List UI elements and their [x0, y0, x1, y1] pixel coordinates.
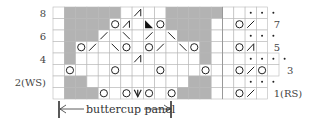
- knitting-chart: 8642(WS)7531(RS) buttercup panel: [0, 0, 316, 127]
- panel-label: buttercup panel: [86, 103, 175, 116]
